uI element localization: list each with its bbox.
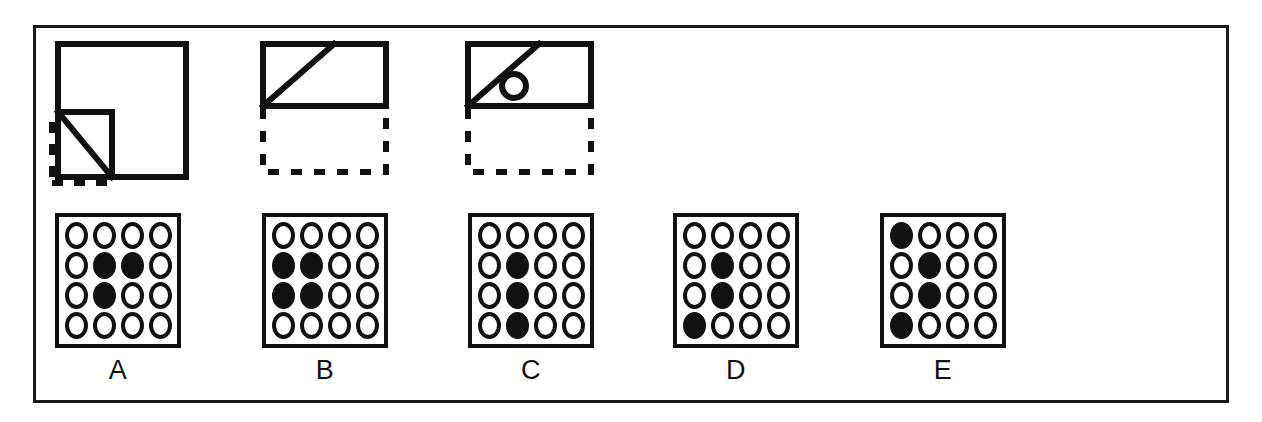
grid-cell (971, 311, 999, 341)
grid-cell (62, 311, 90, 341)
grid-cell (503, 281, 531, 311)
grid-cell (118, 281, 146, 311)
empty-dot-icon (974, 282, 997, 309)
empty-dot-icon (356, 282, 379, 309)
empty-dot-icon (300, 222, 323, 249)
empty-dot-icon (946, 282, 969, 309)
filled-dot-icon (711, 282, 734, 309)
filled-dot-icon (506, 252, 529, 279)
option-a-grid[interactable] (55, 213, 181, 348)
filled-dot-icon (300, 252, 323, 279)
grid-cell (764, 281, 792, 311)
empty-dot-icon (121, 282, 144, 309)
empty-dot-icon (534, 252, 557, 279)
grid-cell (297, 220, 325, 250)
empty-dot-icon (683, 252, 706, 279)
grid-cell (680, 220, 708, 250)
grid-cell (764, 250, 792, 280)
empty-dot-icon (93, 312, 116, 339)
option-a[interactable]: A (55, 213, 181, 384)
option-d[interactable]: D (673, 213, 799, 384)
grid-cell (325, 250, 353, 280)
grid-cell (269, 311, 297, 341)
empty-dot-icon (562, 252, 585, 279)
grid-cell (971, 281, 999, 311)
grid-cell (118, 220, 146, 250)
filled-dot-icon (506, 312, 529, 339)
filled-dot-icon (300, 282, 323, 309)
empty-dot-icon (121, 312, 144, 339)
grid-cell (146, 281, 174, 311)
grid-cell (559, 311, 587, 341)
grid-cell (736, 220, 764, 250)
grid-cell (269, 220, 297, 250)
puzzle-root: A B C D E (0, 0, 1262, 422)
empty-dot-icon (506, 222, 529, 249)
filled-dot-icon (93, 252, 116, 279)
grid-cell (943, 311, 971, 341)
empty-dot-icon (918, 312, 941, 339)
grid-cell (118, 250, 146, 280)
grid-cell (118, 311, 146, 341)
option-c-grid[interactable] (468, 213, 594, 348)
grid-cell (531, 250, 559, 280)
grid-cell (915, 281, 943, 311)
grid-cell (325, 311, 353, 341)
empty-dot-icon (478, 252, 501, 279)
empty-dot-icon (767, 222, 790, 249)
empty-dot-icon (65, 312, 88, 339)
filled-dot-icon (918, 252, 941, 279)
grid-cell (559, 250, 587, 280)
filled-dot-icon (890, 222, 913, 249)
grid-cell (353, 311, 381, 341)
empty-dot-icon (946, 312, 969, 339)
grid-cell (680, 250, 708, 280)
empty-dot-icon (478, 222, 501, 249)
option-c-label: C (468, 357, 594, 384)
option-b[interactable]: B (262, 213, 388, 384)
empty-dot-icon (562, 312, 585, 339)
empty-dot-icon (767, 312, 790, 339)
option-b-grid[interactable] (262, 213, 388, 348)
empty-dot-icon (562, 222, 585, 249)
grid-cell (90, 250, 118, 280)
empty-dot-icon (149, 282, 172, 309)
option-c[interactable]: C (468, 213, 594, 384)
empty-dot-icon (65, 252, 88, 279)
option-e-label: E (880, 357, 1006, 384)
grid-cell (503, 220, 531, 250)
grid-cell (559, 220, 587, 250)
empty-dot-icon (478, 282, 501, 309)
filled-dot-icon (683, 312, 706, 339)
grid-cell (475, 281, 503, 311)
option-b-label: B (262, 357, 388, 384)
grid-cell (62, 220, 90, 250)
grid-cell (503, 311, 531, 341)
grid-cell (708, 250, 736, 280)
empty-dot-icon (328, 282, 351, 309)
filled-dot-icon (272, 282, 295, 309)
grid-cell (475, 220, 503, 250)
grid-cell (971, 250, 999, 280)
empty-dot-icon (946, 252, 969, 279)
grid-cell (887, 311, 915, 341)
grid-cell (708, 281, 736, 311)
grid-cell (915, 250, 943, 280)
option-d-grid[interactable] (673, 213, 799, 348)
grid-cell (531, 311, 559, 341)
grid-cell (915, 220, 943, 250)
empty-dot-icon (739, 222, 762, 249)
grid-cell (887, 220, 915, 250)
grid-cell (680, 281, 708, 311)
option-e[interactable]: E (880, 213, 1006, 384)
empty-dot-icon (739, 312, 762, 339)
grid-cell (887, 250, 915, 280)
grid-cell (764, 220, 792, 250)
empty-dot-icon (534, 282, 557, 309)
empty-dot-icon (534, 312, 557, 339)
grid-cell (325, 281, 353, 311)
empty-dot-icon (683, 222, 706, 249)
option-e-grid[interactable] (880, 213, 1006, 348)
filled-dot-icon (506, 282, 529, 309)
empty-dot-icon (767, 282, 790, 309)
